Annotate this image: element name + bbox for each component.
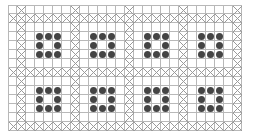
board-cell[interactable] [89,23,98,32]
board-cell[interactable] [170,113,179,122]
board-cell[interactable] [80,77,89,86]
board-cell[interactable] [26,59,35,68]
game-piece[interactable] [108,51,115,58]
board-cell[interactable] [8,113,17,122]
game-piece[interactable] [108,87,115,94]
game-piece[interactable] [90,105,97,112]
game-piece[interactable] [198,105,205,112]
game-piece[interactable] [54,51,61,58]
game-piece[interactable] [54,96,61,103]
board-cell[interactable] [98,77,107,86]
board-cell[interactable] [8,77,17,86]
board-cell[interactable] [26,41,35,50]
board-cell[interactable] [224,23,233,32]
board-cell[interactable] [62,41,71,50]
board-cell[interactable] [44,23,53,32]
board-cell[interactable] [26,86,35,95]
board-cell[interactable] [188,95,197,104]
game-piece[interactable] [90,42,97,49]
board-cell[interactable] [98,59,107,68]
board-cell[interactable] [134,41,143,50]
board-cell[interactable] [152,41,161,50]
game-piece[interactable] [216,42,223,49]
board-cell[interactable] [143,23,152,32]
board-cell[interactable] [215,59,224,68]
board-cell[interactable] [215,113,224,122]
game-piece[interactable] [99,105,106,112]
game-piece[interactable] [36,33,43,40]
board-cell[interactable] [80,32,89,41]
board-cell[interactable] [35,23,44,32]
board-cell[interactable] [107,113,116,122]
game-piece[interactable] [36,105,43,112]
board-cell[interactable] [107,5,116,14]
board-cell[interactable] [53,113,62,122]
board-cell[interactable] [152,23,161,32]
board-cell[interactable] [116,32,125,41]
board-cell[interactable] [188,50,197,59]
board-cell[interactable] [197,23,206,32]
game-piece[interactable] [54,42,61,49]
game-piece[interactable] [45,87,52,94]
board-cell[interactable] [107,59,116,68]
board-cell[interactable] [98,23,107,32]
board-cell[interactable] [8,5,17,14]
game-piece[interactable] [99,33,106,40]
board-cell[interactable] [53,77,62,86]
board-cell[interactable] [35,113,44,122]
board-cell[interactable] [188,77,197,86]
game-piece[interactable] [198,87,205,94]
board-cell[interactable] [206,95,215,104]
board-cell[interactable] [8,23,17,32]
board-cell[interactable] [35,77,44,86]
board-cell[interactable] [116,5,125,14]
game-piece[interactable] [36,51,43,58]
board-cell[interactable] [116,59,125,68]
game-piece[interactable] [162,105,169,112]
board-cell[interactable] [80,50,89,59]
game-piece[interactable] [108,105,115,112]
board-cell[interactable] [206,23,215,32]
game-piece[interactable] [162,87,169,94]
game-piece[interactable] [198,96,205,103]
board-cell[interactable] [62,59,71,68]
game-piece[interactable] [153,33,160,40]
board-cell[interactable] [152,59,161,68]
board-cell[interactable] [188,23,197,32]
board-cell[interactable] [98,95,107,104]
board-cell[interactable] [62,77,71,86]
game-piece[interactable] [45,105,52,112]
game-piece[interactable] [198,42,205,49]
board-cell[interactable] [188,59,197,68]
board-cell[interactable] [134,50,143,59]
game-piece[interactable] [162,42,169,49]
game-piece[interactable] [162,33,169,40]
board-cell[interactable] [98,113,107,122]
board-cell[interactable] [62,32,71,41]
game-piece[interactable] [144,96,151,103]
board-cell[interactable] [224,41,233,50]
game-piece[interactable] [207,105,214,112]
game-piece[interactable] [36,87,43,94]
game-piece[interactable] [90,33,97,40]
game-piece[interactable] [54,105,61,112]
board-cell[interactable] [116,95,125,104]
game-piece[interactable] [144,105,151,112]
game-piece[interactable] [216,51,223,58]
board-cell[interactable] [80,59,89,68]
board-cell[interactable] [215,23,224,32]
board-cell[interactable] [134,23,143,32]
board-cell[interactable] [53,59,62,68]
board-cell[interactable] [224,86,233,95]
board-cell[interactable] [170,5,179,14]
game-piece[interactable] [216,33,223,40]
board-cell[interactable] [62,104,71,113]
board-cell[interactable] [26,50,35,59]
board-cell[interactable] [224,5,233,14]
board-cell[interactable] [80,113,89,122]
board-cell[interactable] [44,59,53,68]
board-cell[interactable] [26,5,35,14]
game-piece[interactable] [36,96,43,103]
game-piece[interactable] [162,51,169,58]
game-piece[interactable] [108,96,115,103]
